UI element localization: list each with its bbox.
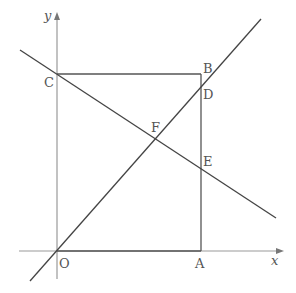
point-label-d: D <box>203 88 213 101</box>
x-axis-label: x <box>271 254 278 267</box>
point-label-o: O <box>59 257 70 270</box>
point-label-f: F <box>151 121 160 134</box>
line-odf <box>30 19 261 281</box>
square-oabc <box>57 74 201 251</box>
y-axis-label: y <box>44 9 51 22</box>
point-label-b: B <box>203 62 213 75</box>
point-label-a: A <box>195 257 204 270</box>
diagram-svg <box>0 0 296 293</box>
line-cfe <box>20 50 276 218</box>
diagram-canvas: y x O A B C D E F <box>0 0 296 293</box>
point-label-e: E <box>203 155 213 168</box>
y-axis <box>54 12 60 279</box>
point-label-c: C <box>44 76 54 89</box>
y-axis-arrow-icon <box>54 12 60 20</box>
